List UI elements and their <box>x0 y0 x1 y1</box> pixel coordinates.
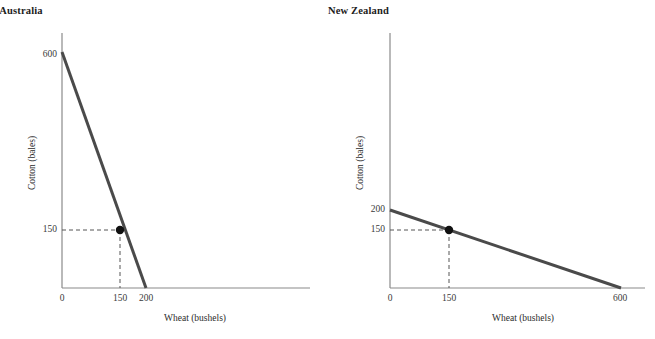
x-tick-label-150: 150 <box>435 294 463 304</box>
chart-panel-newzealand: New Zealand 200 150 0 150 600 Wheat (bus… <box>328 0 655 339</box>
production-point-marker <box>116 226 124 234</box>
y-tick-label-600: 600 <box>30 50 57 60</box>
ppf-line-newzealand <box>390 210 621 288</box>
y-axis-title: Cotton (bales) <box>27 136 37 190</box>
chart-panel-australia: Australia 600 150 0 150 200 Wheat (bushe… <box>0 0 328 339</box>
x-tick-label-0: 0 <box>376 294 404 304</box>
x-tick-label-200: 200 <box>132 294 160 304</box>
y-tick-label-200: 200 <box>358 205 385 215</box>
ppf-line-australia <box>62 52 146 288</box>
y-tick-label-150: 150 <box>30 225 57 235</box>
x-axis-title: Wheat (bushels) <box>463 313 583 323</box>
plot-area-newzealand <box>328 0 655 339</box>
x-axis-title: Wheat (bushels) <box>135 313 255 323</box>
y-axis-title: Cotton (bales) <box>355 136 365 190</box>
production-point-marker <box>445 226 453 234</box>
x-tick-label-150: 150 <box>106 294 134 304</box>
x-tick-label-600: 600 <box>606 294 634 304</box>
y-tick-label-150: 150 <box>358 225 385 235</box>
x-tick-label-0: 0 <box>48 294 76 304</box>
